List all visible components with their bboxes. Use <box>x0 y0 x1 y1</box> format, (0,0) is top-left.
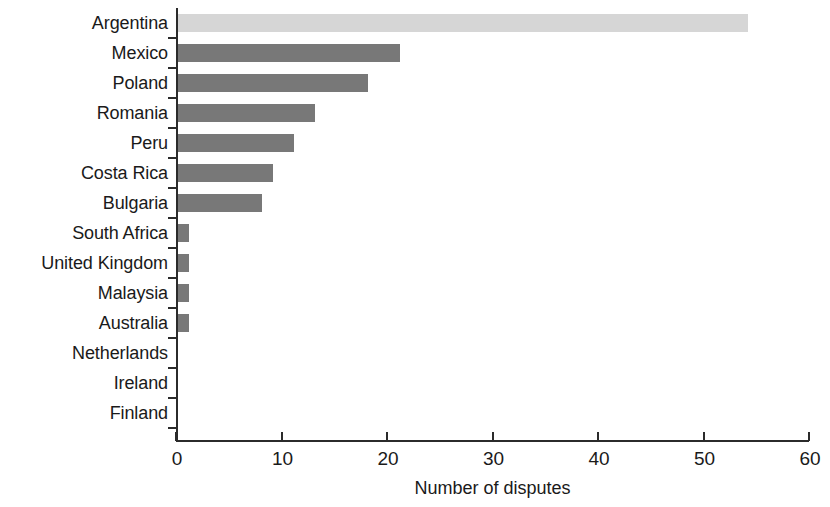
x-axis-tick-label: 10 <box>253 448 313 470</box>
bar <box>178 14 748 32</box>
category-label: Australia <box>0 308 168 338</box>
category-label: South Africa <box>0 218 168 248</box>
bar <box>178 164 273 182</box>
chart-row: Costa Rica <box>0 158 830 188</box>
chart-row: South Africa <box>0 218 830 248</box>
chart-row: Mexico <box>0 38 830 68</box>
category-label: Finland <box>0 398 168 428</box>
bar <box>178 284 189 302</box>
bar-chart: ArgentinaMexicoPolandRomaniaPeruCosta Ri… <box>0 0 830 507</box>
chart-row: Finland <box>0 398 830 428</box>
chart-row: Peru <box>0 128 830 158</box>
category-label: Bulgaria <box>0 188 168 218</box>
category-label: United Kingdom <box>0 248 168 278</box>
chart-row: Bulgaria <box>0 188 830 218</box>
category-label: Peru <box>0 128 168 158</box>
x-axis-tick-label: 0 <box>147 448 207 470</box>
chart-row: Ireland <box>0 368 830 398</box>
bar <box>178 44 400 62</box>
category-label: Ireland <box>0 368 168 398</box>
bar <box>178 104 315 122</box>
category-label: Romania <box>0 98 168 128</box>
chart-row: Argentina <box>0 8 830 38</box>
x-axis-tick-label: 40 <box>569 448 629 470</box>
x-axis-tick-label: 50 <box>675 448 735 470</box>
bar <box>178 194 262 212</box>
bar <box>178 134 294 152</box>
bar <box>178 254 189 272</box>
chart-row: Romania <box>0 98 830 128</box>
category-label: Poland <box>0 68 168 98</box>
chart-row: Australia <box>0 308 830 338</box>
x-axis-title: Number of disputes <box>176 478 809 499</box>
bar <box>178 224 189 242</box>
chart-row: Netherlands <box>0 338 830 368</box>
y-axis-tick <box>168 427 177 429</box>
category-label: Mexico <box>0 38 168 68</box>
x-axis-line <box>176 440 809 442</box>
x-axis-tick-label: 60 <box>780 448 830 470</box>
category-label: Argentina <box>0 8 168 38</box>
category-label: Costa Rica <box>0 158 168 188</box>
chart-row: Malaysia <box>0 278 830 308</box>
chart-row: United Kingdom <box>0 248 830 278</box>
x-axis-tick-label: 20 <box>358 448 418 470</box>
bar <box>178 74 368 92</box>
chart-bars-area: ArgentinaMexicoPolandRomaniaPeruCosta Ri… <box>0 8 830 440</box>
x-axis-tick-label: 30 <box>464 448 524 470</box>
bar <box>178 314 189 332</box>
chart-row: Poland <box>0 68 830 98</box>
category-label: Malaysia <box>0 278 168 308</box>
category-label: Netherlands <box>0 338 168 368</box>
